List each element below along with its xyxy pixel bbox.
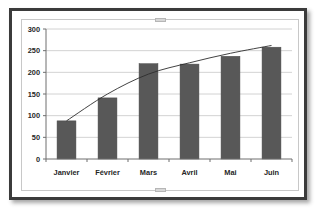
x-tick-label: Juin: [264, 168, 280, 177]
page-canvas: 050100150200250300JanvierFévrierMarsAvri…: [0, 0, 317, 212]
y-tick-label: 150: [28, 90, 40, 99]
x-tick-label: Mai: [224, 168, 236, 177]
x-tick-label: Janvier: [54, 168, 80, 177]
chart-object[interactable]: 050100150200250300JanvierFévrierMarsAvri…: [9, 8, 307, 200]
x-tick-label: Mars: [140, 168, 157, 177]
bar-juin[interactable]: [262, 47, 281, 159]
y-tick-label: 300: [28, 25, 40, 34]
chart-svg: 050100150200250300JanvierFévrierMarsAvri…: [12, 11, 304, 197]
y-tick-label: 100: [28, 111, 40, 120]
bar-février[interactable]: [98, 98, 117, 159]
y-tick-label: 50: [32, 133, 40, 142]
y-tick-label: 200: [28, 68, 40, 77]
x-tick-label: Février: [95, 168, 120, 177]
bar-mars[interactable]: [139, 64, 158, 159]
bar-janvier[interactable]: [57, 121, 76, 159]
x-tick-label: Avril: [181, 168, 197, 177]
chart-plot-area: 050100150200250300JanvierFévrierMarsAvri…: [12, 11, 304, 197]
y-tick-label: 250: [28, 46, 40, 55]
bar-mai[interactable]: [221, 56, 240, 159]
y-tick-label: 0: [36, 155, 40, 164]
bar-avril[interactable]: [180, 64, 199, 159]
